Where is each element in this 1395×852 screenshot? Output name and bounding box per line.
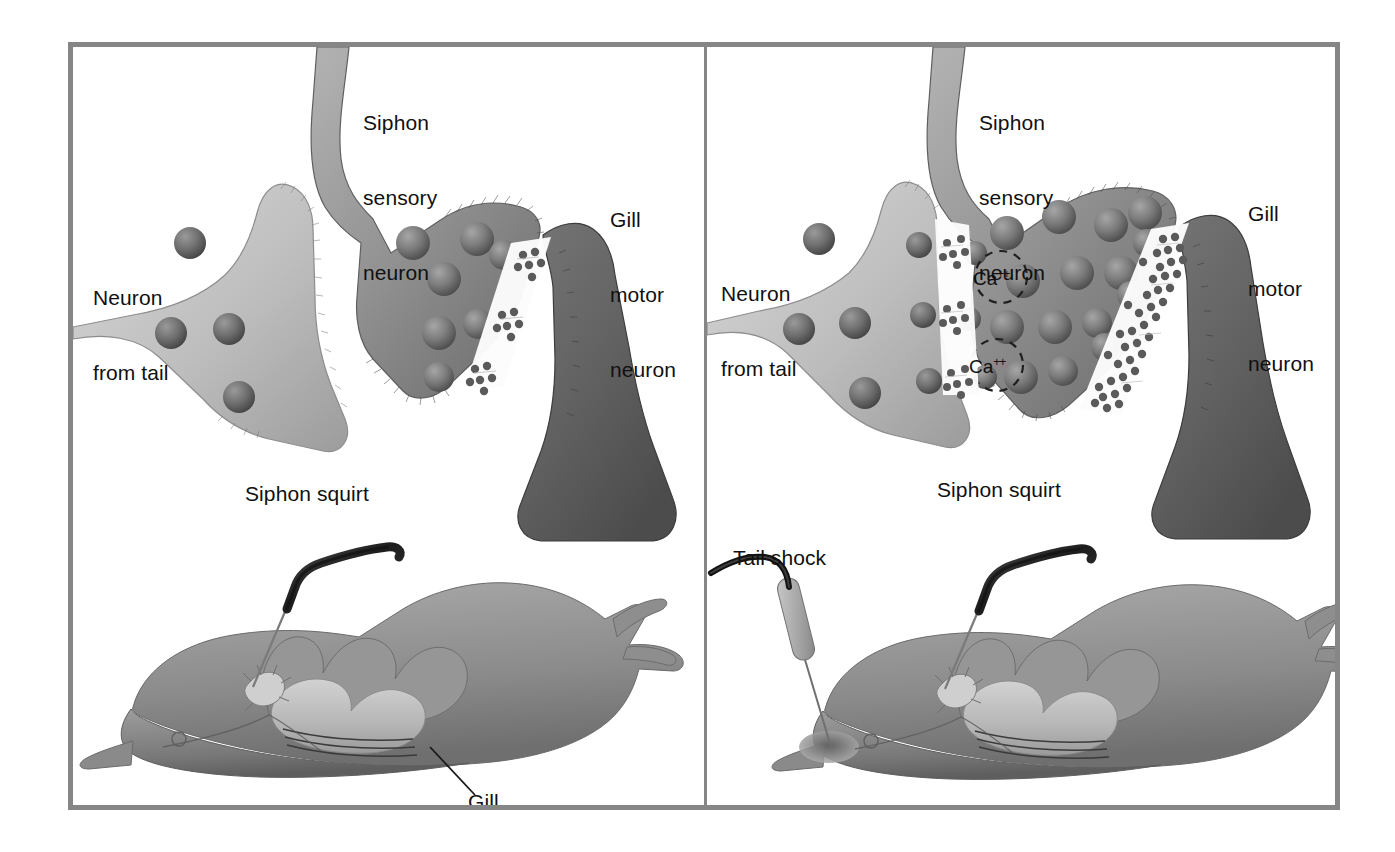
vesicle	[460, 222, 494, 256]
label-tail-shock: Tail shock	[733, 545, 826, 570]
label-gill: Gill	[468, 789, 499, 805]
ion-charge: ++	[993, 355, 1005, 369]
vesicle	[1060, 256, 1094, 290]
label-neuron-from-tail: Neuron from tail	[93, 235, 169, 435]
label-line: motor	[610, 282, 676, 307]
vesicle-fusing	[906, 232, 932, 258]
vesicle	[839, 307, 871, 339]
vesicle	[213, 313, 245, 345]
label-siphon-squirt: Siphon squirt	[937, 477, 1061, 502]
label-line: from tail	[93, 360, 169, 385]
label-neuron-from-tail: Neuron from tail	[721, 231, 797, 431]
label-line: Neuron	[93, 285, 169, 310]
label-gill-motor-neuron: Gill motor neuron	[1248, 151, 1314, 426]
vesicle	[174, 227, 206, 259]
label-line: Siphon	[979, 110, 1053, 135]
label-line: neuron	[1248, 351, 1314, 376]
label-line: Gill	[1248, 201, 1314, 226]
label-siphon-sensory-neuron: Siphon sensory neuron	[979, 60, 1053, 335]
vesicle	[223, 381, 255, 413]
label-line: neuron	[610, 357, 676, 382]
label-calcium-ion: Ca++	[973, 267, 1009, 290]
label-line: Gill	[610, 207, 676, 232]
aplysia-illustration-left	[80, 547, 683, 795]
vesicle-fusing	[916, 368, 942, 394]
vesicle-fusing	[424, 362, 454, 392]
figure-frame: Siphon sensory neuron Neuron from tail G…	[68, 42, 1340, 810]
label-siphon-squirt: Siphon squirt	[245, 481, 369, 506]
label-line: neuron	[363, 260, 437, 285]
ion-symbol: Ca	[973, 268, 997, 289]
shock-site	[799, 731, 859, 763]
vesicle	[1004, 360, 1038, 394]
label-line: Neuron	[721, 281, 797, 306]
label-line: sensory	[979, 185, 1053, 210]
label-gill-motor-neuron: Gill motor neuron	[610, 157, 676, 432]
label-siphon-sensory-neuron: Siphon sensory neuron	[363, 60, 437, 335]
tail-shock-electrode	[711, 557, 831, 747]
label-line: sensory	[363, 185, 437, 210]
ion-charge: ++	[997, 267, 1009, 281]
vesicle	[849, 377, 881, 409]
label-calcium-ion: Ca++	[969, 355, 1005, 378]
vesicle	[803, 223, 835, 255]
ion-symbol: Ca	[969, 356, 993, 377]
vesicle-fusing	[1048, 356, 1078, 386]
vesicle	[1128, 196, 1162, 230]
aplysia-illustration-right	[711, 549, 1335, 780]
label-line: from tail	[721, 356, 797, 381]
vesicle-fusing	[910, 302, 936, 328]
panel-after-tail-shock: Siphon sensory neuron Neuron from tail G…	[707, 47, 1335, 805]
vesicle	[1094, 208, 1128, 242]
label-line: Siphon	[363, 110, 437, 135]
figure-root: Siphon sensory neuron Neuron from tail G…	[0, 0, 1395, 852]
label-line: motor	[1248, 276, 1314, 301]
panel-before-tail-shock: Siphon sensory neuron Neuron from tail G…	[73, 47, 704, 805]
